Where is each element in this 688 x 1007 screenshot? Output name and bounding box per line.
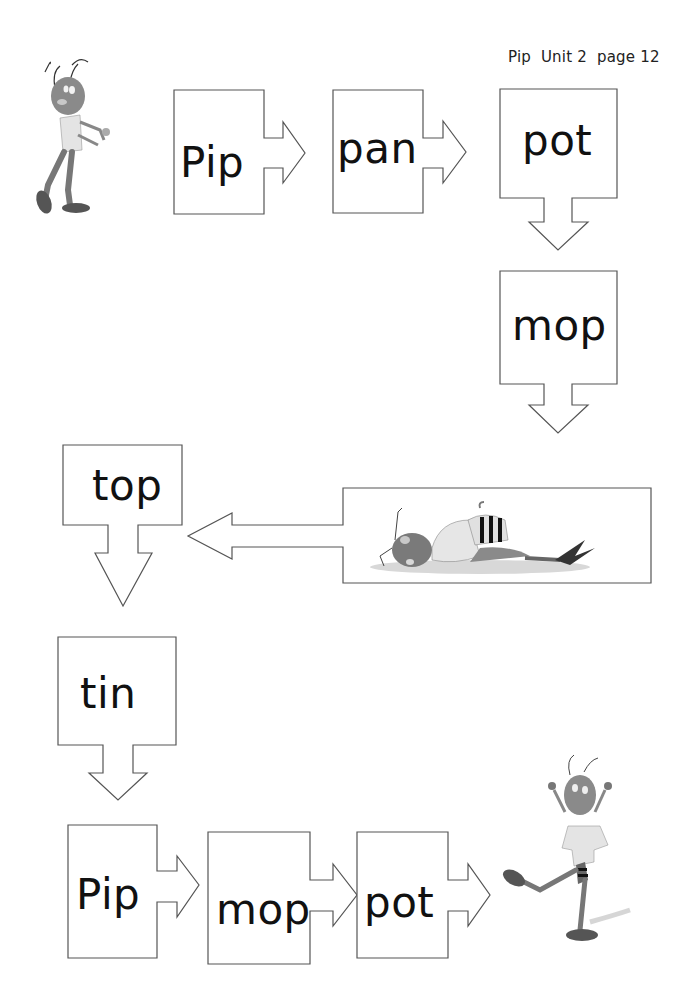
word-box-tin [58, 637, 176, 800]
word-top: top [92, 465, 162, 507]
word-mop-2: mop [216, 889, 311, 931]
word-box-mop-1 [500, 271, 617, 433]
word-mop-1: mop [512, 305, 607, 347]
word-tin: tin [80, 673, 136, 715]
word-pip-2: Pip [76, 874, 140, 916]
ant-standing-illustration [33, 60, 110, 216]
word-pan: pan [337, 128, 418, 170]
ant-dancing-illustration [500, 755, 630, 941]
word-pot-2: pot [364, 882, 434, 924]
word-pot-1: pot [522, 120, 592, 162]
word-pip-1: Pip [180, 142, 244, 184]
word-box-pot-1 [500, 89, 617, 250]
